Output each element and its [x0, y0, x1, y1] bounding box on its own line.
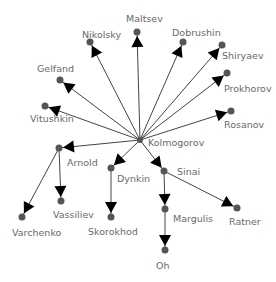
arrowhead-icon	[63, 141, 75, 153]
node-prokhorov[interactable]	[224, 70, 231, 77]
node-shiryaev[interactable]	[219, 42, 226, 49]
node-vassiliev[interactable]	[58, 198, 65, 205]
node-label-sinai: Sinai	[177, 167, 200, 177]
node-label-oh: Oh	[156, 261, 170, 271]
node-label-vassiliev: Vassiliev	[53, 210, 94, 220]
node-label-dynkin: Dynkin	[117, 174, 150, 184]
node-vitushkin[interactable]	[42, 103, 49, 110]
arrowhead-icon	[131, 36, 143, 47]
node-label-skorokhod: Skorokhod	[88, 227, 138, 237]
node-dobrushin[interactable]	[180, 39, 187, 46]
arrowhead-icon	[208, 48, 220, 60]
node-label-varchenko: Varchenko	[12, 228, 61, 238]
node-label-prokhorov: Prokhorov	[224, 84, 272, 94]
node-label-ratner: Ratner	[229, 217, 261, 227]
arrowhead-icon	[159, 194, 171, 205]
node-dynkin[interactable]	[108, 165, 115, 172]
edge-kolmogorov-prokhorov	[140, 73, 227, 140]
arrowhead-icon	[212, 75, 224, 87]
node-label-nikolsky: Nikolsky	[82, 30, 121, 40]
node-label-rosanov: Rosanov	[224, 120, 264, 130]
node-arnold[interactable]	[56, 145, 63, 152]
node-ratner[interactable]	[234, 205, 241, 212]
node-maltsev[interactable]	[134, 29, 141, 36]
arrowhead-icon	[150, 156, 162, 168]
arrowhead-icon	[159, 235, 171, 246]
graph-svg	[0, 0, 276, 282]
node-gelfand[interactable]	[57, 77, 64, 84]
edge-kolmogorov-dobrushin	[140, 42, 183, 140]
node-rosanov[interactable]	[228, 108, 235, 115]
node-skorokhod[interactable]	[108, 214, 115, 221]
arrowhead-icon	[63, 82, 75, 93]
node-label-shiryaev: Shiryaev	[222, 51, 264, 61]
arrowhead-icon	[105, 202, 117, 213]
graph-canvas: KolmogorovMaltsevNikolskyDobrushinShirya…	[0, 0, 276, 282]
node-oh[interactable]	[162, 247, 169, 254]
node-varchenko[interactable]	[19, 214, 26, 221]
node-label-kolmogorov: Kolmogorov	[148, 138, 204, 148]
arrowhead-icon	[54, 186, 66, 197]
node-label-maltsev: Maltsev	[126, 14, 163, 24]
edge-kolmogorov-maltsev	[137, 32, 140, 140]
edge-kolmogorov-shiryaev	[140, 45, 222, 140]
node-sinai[interactable]	[161, 168, 168, 175]
node-kolmogorov[interactable]	[137, 137, 143, 143]
node-label-vitushkin: Vitushkin	[30, 114, 74, 124]
node-label-dobrushin: Dobrushin	[172, 28, 221, 38]
node-label-gelfand: Gelfand	[37, 64, 74, 74]
node-margulis[interactable]	[162, 206, 169, 213]
node-label-margulis: Margulis	[173, 214, 213, 224]
node-label-arnold: Arnold	[67, 158, 98, 168]
